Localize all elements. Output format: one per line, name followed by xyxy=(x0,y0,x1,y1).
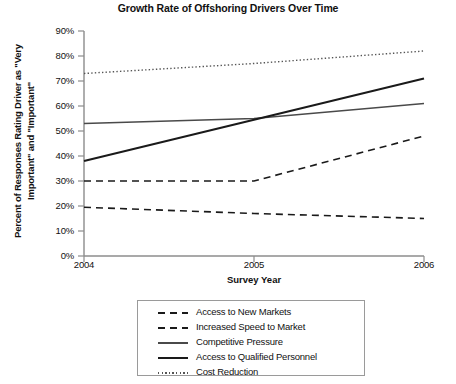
legend-swatch-1 xyxy=(158,327,188,329)
legend-swatch-4 xyxy=(158,372,188,374)
legend-item-1: Increased Speed to Market xyxy=(138,321,366,335)
legend-swatch-2 xyxy=(158,342,188,344)
legend-swatch-0 xyxy=(158,312,188,314)
y-tick-marks xyxy=(78,31,84,256)
legend-label-0: Access to New Markets xyxy=(196,306,291,317)
x-tick-marks xyxy=(84,256,424,262)
series-line-access-to-qualified-personnel xyxy=(84,79,424,162)
legend-label-1: Increased Speed to Market xyxy=(196,321,305,332)
legend-label-4: Cost Reduction xyxy=(196,366,258,377)
series-line-increased-speed-to-market xyxy=(84,207,424,218)
legend-item-4: Cost Reduction xyxy=(138,366,366,380)
series-line-access-to-new-markets xyxy=(84,136,424,181)
legend-swatch-3 xyxy=(158,357,188,359)
legend-label-2: Competitive Pressure xyxy=(196,336,283,347)
chart-legend: Access to New Markets Increased Speed to… xyxy=(137,300,365,376)
legend-item-2: Competitive Pressure xyxy=(138,336,366,350)
chart-figure: Growth Rate of Offshoring Drivers Over T… xyxy=(0,0,456,384)
legend-item-3: Access to Qualified Personnel xyxy=(138,351,366,365)
legend-label-3: Access to Qualified Personnel xyxy=(196,351,317,362)
legend-item-0: Access to New Markets xyxy=(138,306,366,320)
series-line-cost-reduction xyxy=(84,51,424,74)
